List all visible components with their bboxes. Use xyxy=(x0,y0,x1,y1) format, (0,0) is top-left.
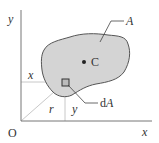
x-distance-label: x xyxy=(27,68,34,82)
area-label: A xyxy=(125,14,134,28)
y-distance-label: y xyxy=(71,102,78,116)
area-element-square xyxy=(62,79,69,86)
area-shape xyxy=(41,34,129,97)
origin-label: O xyxy=(8,126,17,140)
x-axis-label: x xyxy=(141,125,148,139)
element-label-A: A xyxy=(105,96,114,110)
centroid-diagram: y x O A C x y r dA xyxy=(0,0,159,143)
element-label: dA xyxy=(100,96,114,110)
radius-label: r xyxy=(49,102,54,116)
centroid-dot xyxy=(82,60,86,64)
y-axis-label: y xyxy=(7,12,14,26)
centroid-label: C xyxy=(91,55,99,69)
